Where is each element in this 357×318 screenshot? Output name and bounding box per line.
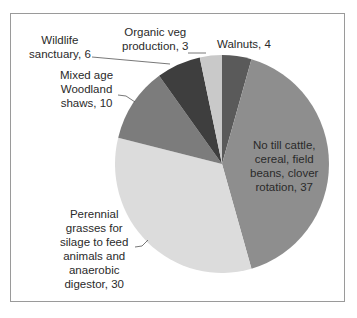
- label-line: grasses for: [60, 221, 128, 235]
- label-line: Mixed age: [60, 68, 113, 82]
- label-line: beans, clover: [250, 166, 318, 180]
- label-line: shaws, 10: [60, 96, 113, 110]
- leader-line-woodland: [118, 95, 135, 102]
- label-line: Perennial: [60, 207, 128, 221]
- label-line: Walnuts, 4: [217, 37, 271, 51]
- label-woodland: Mixed age Woodland shaws, 10: [60, 68, 113, 110]
- label-line: rotation, 37: [250, 180, 318, 194]
- label-walnuts: Walnuts, 4: [217, 37, 271, 51]
- label-line: No till cattle,: [250, 138, 318, 152]
- leader-line-wildlife: [92, 57, 170, 64]
- label-line: animals and: [60, 249, 128, 263]
- label-line: sanctuary, 6: [29, 47, 91, 61]
- label-organic: Organic veg production, 3: [122, 25, 189, 53]
- label-wildlife: Wildlife sanctuary, 6: [29, 33, 91, 61]
- label-line: silage to feed: [60, 235, 128, 249]
- label-line: digestor, 30: [60, 277, 128, 291]
- label-line: Wildlife: [29, 33, 91, 47]
- label-line: Woodland: [60, 82, 113, 96]
- label-line: anaerobic: [60, 263, 128, 277]
- label-no-till: No till cattle, cereal, field beans, clo…: [250, 138, 318, 194]
- leader-line-perennial: [135, 240, 148, 247]
- label-line: Organic veg: [122, 25, 189, 39]
- label-perennial: Perennial grasses for silage to feed ani…: [60, 207, 128, 291]
- label-line: production, 3: [122, 39, 189, 53]
- label-line: cereal, field: [250, 152, 318, 166]
